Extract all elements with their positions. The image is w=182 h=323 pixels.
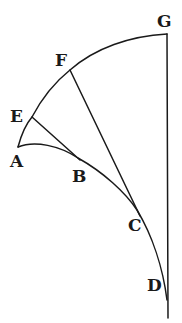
line-GD: [167, 34, 168, 318]
label-C: C: [128, 215, 142, 235]
label-A: A: [9, 151, 24, 171]
involute-diagram: G F E A B C D: [0, 0, 182, 323]
label-G: G: [157, 11, 172, 31]
label-D: D: [147, 275, 162, 295]
label-B: B: [72, 166, 86, 186]
line-FC: [70, 70, 140, 216]
line-EB: [32, 117, 80, 160]
label-E: E: [10, 106, 23, 126]
inner-curve: [18, 144, 167, 300]
label-F: F: [55, 50, 67, 70]
outer-arc: [18, 34, 167, 147]
